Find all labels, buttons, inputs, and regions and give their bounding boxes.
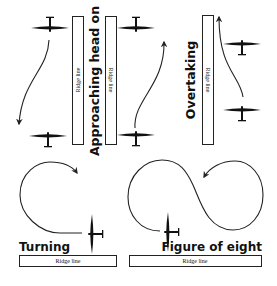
- section-title-approaching: Approaching head on: [87, 6, 102, 156]
- section-title-figure-of-eight: Figure of eight: [162, 240, 263, 254]
- section-overtaking: Overtaking Ridge line: [183, 16, 261, 145]
- flight-path-arrow: [219, 17, 243, 97]
- ridge-line-label: Ridge line: [205, 68, 211, 93]
- flight-path-arrow: [135, 42, 164, 128]
- glider-icon: [31, 17, 69, 32]
- section-title-overtaking: Overtaking: [183, 41, 198, 119]
- glider-icon: [223, 106, 261, 121]
- section-title-turning: Turning: [19, 240, 70, 254]
- section-approaching-head-on: Ridge line Approaching head on Ridge lin…: [19, 6, 164, 156]
- glider-icon: [117, 17, 155, 32]
- section-figure-of-eight: Figure of eight Ridge line: [128, 160, 263, 267]
- flight-path-arrow: [19, 40, 49, 124]
- ridge-line-label: Ridge line: [75, 67, 81, 92]
- glider-icon: [29, 132, 67, 147]
- section-turning: Turning Ridge line: [19, 162, 117, 267]
- glider-icon: [117, 131, 155, 146]
- glider-icon: [223, 40, 261, 55]
- flight-path-arrow: [128, 160, 263, 231]
- ridge-soaring-rules-diagram: Ridge line Approaching head on Ridge lin…: [0, 0, 277, 286]
- ridge-line-label: Ridge line: [183, 258, 208, 264]
- glider-icon: [88, 214, 103, 254]
- ridge-line-label: Ridge line: [56, 258, 81, 264]
- ridge-line-label: Ridge line: [108, 68, 114, 93]
- flight-path-arrow: [20, 162, 82, 233]
